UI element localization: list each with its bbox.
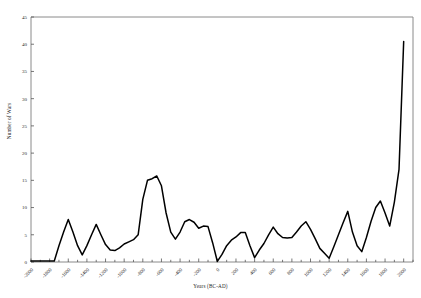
x-tick-label: 400 <box>249 267 258 276</box>
x-tick-label: 600 <box>268 267 277 276</box>
x-tick-label: 200 <box>230 267 239 276</box>
plot-frame <box>31 17 413 262</box>
x-tick-label: -200 <box>192 267 202 277</box>
x-tick-label: -1400 <box>78 267 90 279</box>
y-tick-label: 20 <box>22 151 28 156</box>
y-tick-label: 15 <box>22 178 28 183</box>
y-tick-label: 0 <box>25 260 28 265</box>
x-tick-label: 800 <box>286 267 295 276</box>
y-tick-label: 45 <box>22 15 28 20</box>
x-tick-label: 1400 <box>340 267 351 278</box>
y-tick-label: 5 <box>25 233 28 238</box>
x-tick-label: -600 <box>155 267 165 277</box>
x-tick-label: 1200 <box>322 267 333 278</box>
x-tick-label: 1800 <box>378 267 389 278</box>
y-tick-label: 30 <box>22 97 28 102</box>
y-tick-label: 35 <box>22 69 28 74</box>
x-tick-label: 2000 <box>396 267 407 278</box>
x-tick-label: -1200 <box>97 267 109 279</box>
x-tick-label: -1000 <box>116 267 128 279</box>
y-axis-title: Number of Wars <box>6 86 12 156</box>
x-tick-label: -400 <box>173 267 183 277</box>
x-tick-label: -1600 <box>60 267 72 279</box>
x-tick-label: -800 <box>136 267 146 277</box>
x-tick-label: 1000 <box>303 267 314 278</box>
x-axis-title: Years (BC-AD) <box>0 283 421 289</box>
x-tick-label: 1600 <box>359 267 370 278</box>
x-tick-label: -1800 <box>41 267 53 279</box>
data-series-line <box>31 42 404 262</box>
line-chart-plot: 051015202530354045-2000-1800-1600-1400-1… <box>0 0 421 298</box>
y-tick-label: 25 <box>22 124 28 129</box>
x-tick-label: 0 <box>215 267 221 273</box>
y-tick-label: 10 <box>22 205 28 210</box>
y-tick-label: 40 <box>22 42 28 47</box>
chart-container: 051015202530354045-2000-1800-1600-1400-1… <box>0 0 421 298</box>
x-tick-label: -2000 <box>22 267 34 279</box>
